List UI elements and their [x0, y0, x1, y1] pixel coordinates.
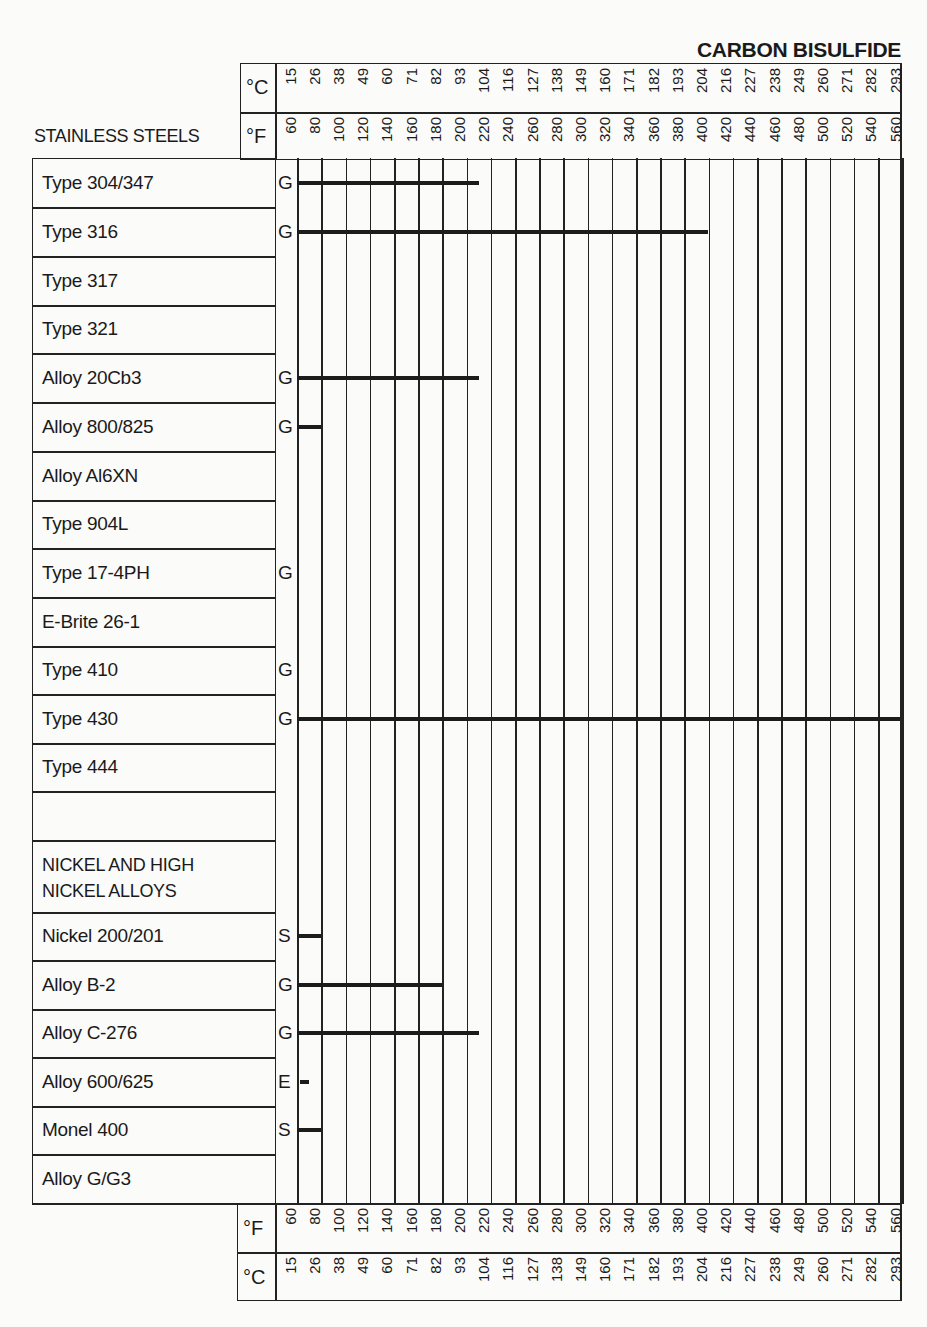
rating-letter: G — [278, 708, 293, 730]
material-label: Alloy C-276 — [42, 1021, 137, 1044]
celsius-tick-label: 204 — [694, 68, 709, 93]
fahrenheit-tick-label: 560 — [888, 1208, 903, 1233]
grid-column-line — [418, 158, 420, 1204]
rating-letter: G — [278, 659, 293, 681]
grid-column-line — [612, 158, 614, 1204]
grid-column-line — [321, 158, 323, 1204]
fahrenheit-tick-label: 200 — [452, 117, 467, 142]
resistance-range-bar — [300, 1080, 309, 1084]
grid-column-line — [878, 158, 880, 1204]
rating-letter: E — [278, 1071, 291, 1093]
fahrenheit-unit-label: °F — [246, 125, 266, 148]
grid-column-line — [902, 158, 904, 1204]
fahrenheit-tick-label: 400 — [694, 1208, 709, 1233]
celsius-unit-label: °C — [243, 1266, 265, 1289]
resistance-range-bar — [297, 1128, 321, 1132]
celsius-tick-label: 71 — [404, 1257, 419, 1274]
fahrenheit-tick-label: 320 — [597, 1208, 612, 1233]
fahrenheit-tick-label: 460 — [767, 117, 782, 142]
grid-column-line — [563, 158, 565, 1204]
resistance-range-bar — [297, 376, 479, 380]
grid-column-line — [491, 158, 493, 1204]
grid-right-edge — [900, 63, 902, 1301]
celsius-tick-label: 227 — [742, 1257, 757, 1282]
row-divider — [32, 207, 276, 209]
row-divider — [32, 1106, 276, 1108]
celsius-tick-label: 160 — [597, 1257, 612, 1282]
fahrenheit-tick-label: 80 — [307, 117, 322, 134]
row-divider — [32, 960, 276, 962]
resistance-range-bar — [297, 230, 708, 234]
fahrenheit-tick-label: 80 — [307, 1208, 322, 1225]
celsius-tick-label: 104 — [476, 1257, 491, 1282]
grid-column-line — [805, 158, 807, 1204]
rating-letter: S — [278, 925, 291, 947]
row-divider — [32, 500, 276, 502]
celsius-tick-label: 26 — [307, 68, 322, 85]
row-divider — [32, 1154, 276, 1156]
material-label: Type 444 — [42, 755, 118, 778]
fahrenheit-tick-label: 360 — [646, 1208, 661, 1233]
grid-column-line — [346, 158, 348, 1204]
grid-column-line — [684, 158, 686, 1204]
celsius-tick-label: 26 — [307, 1257, 322, 1274]
celsius-tick-label: 293 — [888, 1257, 903, 1282]
celsius-tick-label: 249 — [791, 1257, 806, 1282]
fahrenheit-tick-label: 420 — [718, 1208, 733, 1233]
celsius-unit-label: °C — [246, 76, 268, 99]
celsius-tick-label: 149 — [573, 68, 588, 93]
celsius-tick-label: 271 — [839, 1257, 854, 1282]
fahrenheit-tick-label: 560 — [888, 117, 903, 142]
row-divider — [32, 353, 276, 355]
header-divider — [240, 112, 902, 114]
celsius-tick-label: 116 — [500, 68, 515, 92]
celsius-tick-label: 216 — [718, 1257, 733, 1282]
celsius-tick-label: 49 — [355, 68, 370, 85]
celsius-tick-label: 49 — [355, 1257, 370, 1274]
fahrenheit-tick-label: 540 — [863, 1208, 878, 1233]
fahrenheit-tick-label: 420 — [718, 117, 733, 142]
grid-column-line — [830, 158, 832, 1204]
celsius-tick-label: 82 — [428, 1257, 443, 1274]
fahrenheit-tick-label: 320 — [597, 117, 612, 142]
rating-letter: G — [278, 974, 293, 996]
celsius-tick-label: 193 — [670, 1257, 685, 1282]
fahrenheit-tick-label: 500 — [815, 117, 830, 142]
fahrenheit-tick-label: 240 — [500, 1208, 515, 1233]
grid-column-line — [442, 158, 444, 1204]
header-divider — [237, 1252, 902, 1254]
fahrenheit-tick-label: 220 — [476, 1208, 491, 1233]
celsius-tick-label: 293 — [888, 68, 903, 93]
rating-letter: G — [278, 416, 293, 438]
material-label: Type 304/347 — [42, 171, 154, 194]
fahrenheit-tick-label: 540 — [863, 117, 878, 142]
celsius-tick-label: 60 — [379, 1257, 394, 1274]
celsius-tick-label: 282 — [863, 1257, 878, 1282]
material-label: Type 430 — [42, 707, 118, 730]
celsius-tick-label: 60 — [379, 68, 394, 85]
grid-column-line — [636, 158, 638, 1204]
material-label: Type 316 — [42, 220, 118, 243]
fahrenheit-tick-label: 240 — [500, 117, 515, 142]
fahrenheit-tick-label: 460 — [767, 1208, 782, 1233]
grid-column-line — [394, 158, 396, 1204]
fahrenheit-tick-label: 340 — [621, 1208, 636, 1233]
grid-column-line — [467, 158, 469, 1204]
grid-column-line — [539, 158, 541, 1204]
material-label: E-Brite 26-1 — [42, 610, 140, 633]
resistance-range-bar — [297, 1031, 479, 1035]
fahrenheit-tick-label: 480 — [791, 1208, 806, 1233]
material-label: Alloy 600/625 — [42, 1070, 153, 1093]
fahrenheit-tick-label: 440 — [742, 1208, 757, 1233]
material-label: Nickel 200/201 — [42, 924, 164, 947]
fahrenheit-tick-label: 180 — [428, 117, 443, 142]
celsius-tick-label: 38 — [331, 1257, 346, 1274]
material-label: Alloy 800/825 — [42, 415, 153, 438]
material-label: Monel 400 — [42, 1118, 128, 1141]
celsius-tick-label: 282 — [863, 68, 878, 93]
celsius-tick-label: 160 — [597, 68, 612, 93]
celsius-tick-label: 82 — [428, 68, 443, 85]
celsius-tick-label: 15 — [283, 1257, 298, 1274]
grid-column-line — [515, 158, 517, 1204]
fahrenheit-tick-label: 340 — [621, 117, 636, 142]
